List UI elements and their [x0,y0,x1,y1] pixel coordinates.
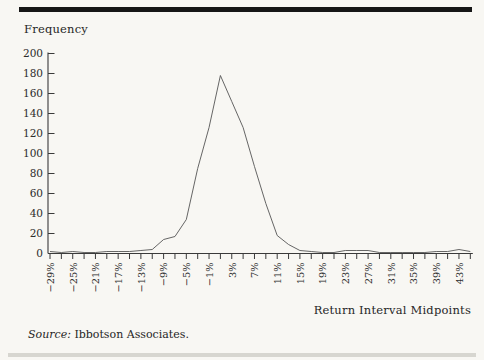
source-text: Ibbotson Associates. [71,328,189,341]
x-tick-label: 23% [340,263,351,285]
source-label: Source: [28,328,71,341]
x-tick-label: 15% [295,263,306,285]
x-tick-label: −25% [68,263,79,293]
y-tick-label: 80 [30,167,43,179]
x-tick-label: −5% [181,263,192,287]
x-tick-label: 35% [408,263,419,285]
x-tick-label: −17% [113,263,124,293]
y-tick-label: 0 [36,247,43,259]
y-tick-label: 40 [30,207,43,219]
y-tick-label: 20 [30,227,43,239]
x-axis-title: Return Interval Midpoints [314,303,471,317]
bottom-rule [8,353,476,357]
y-tick-label: 140 [23,107,43,119]
y-tick-label: 60 [30,187,43,199]
x-tick-label: −1% [204,263,215,287]
frequency-curve [50,76,470,253]
x-tick-label: −29% [45,263,56,293]
y-tick-label: 120 [23,127,43,139]
x-tick-label: 7% [249,263,260,279]
y-tick-label: 180 [23,67,43,79]
y-tick-label: 200 [23,47,43,59]
y-tick-label: 160 [23,87,43,99]
x-tick-label: 27% [363,263,374,285]
figure-page: Frequency 020406080100120140160180200−29… [0,0,484,360]
x-tick-label: 19% [317,263,328,285]
x-tick-label: 31% [386,263,397,285]
source-note: Source: Ibbotson Associates. [28,328,189,341]
x-tick-label: −21% [90,263,101,293]
y-tick-label: 100 [23,147,43,159]
x-tick-label: 39% [431,263,442,285]
x-tick-label: 43% [454,263,465,285]
x-tick-label: 3% [227,263,238,279]
x-tick-label: −13% [136,263,147,293]
x-tick-label: −9% [158,263,169,287]
x-tick-label: 11% [272,263,283,285]
